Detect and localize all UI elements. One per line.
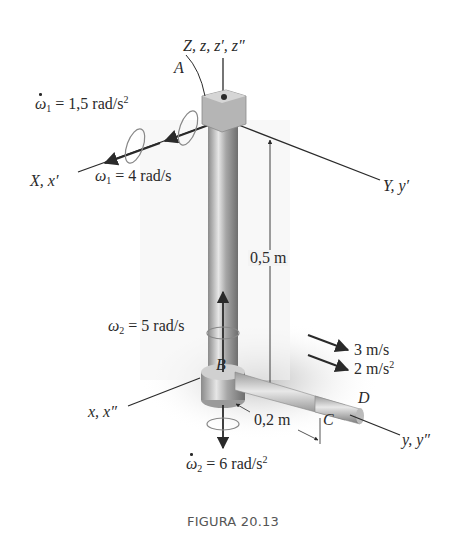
z-axis-label: Z, z, z′, z″ xyxy=(183,38,245,54)
omega2-symbol: ω xyxy=(108,317,119,334)
omega1-symbol: ω xyxy=(95,167,106,184)
top-block-pin xyxy=(221,94,227,100)
length-0-5m-label: 0,5 m xyxy=(248,250,288,266)
slider-end xyxy=(356,408,364,424)
point-D-label: D xyxy=(358,390,370,406)
x-lower-axis-label: x, x″ xyxy=(88,404,117,420)
point-A-label: A xyxy=(174,60,184,76)
acceleration-value: 2 m/s xyxy=(354,360,389,377)
omega2-label: ω2 = 5 rad/s xyxy=(108,318,184,336)
y-lower-axis-line xyxy=(350,415,400,435)
length-0-2m-label: 0,2 m xyxy=(254,412,290,428)
acceleration-label: 2 m/s2 xyxy=(354,360,394,377)
omega2-dot-label: ω2 = 6 rad/s2 xyxy=(186,455,267,474)
omega2-dot-value: = 6 rad/s xyxy=(202,455,262,472)
label-A-leader xyxy=(186,55,205,96)
omega1-dot-value: = 1,5 rad/s xyxy=(51,95,123,112)
omega1-label: ω1 = 4 rad/s xyxy=(95,168,171,186)
acceleration-sup: 2 xyxy=(389,359,394,370)
omega2-value: = 5 rad/s xyxy=(124,317,184,334)
y-upper-axis-label: Y, y′ xyxy=(383,178,409,194)
omega1-value: = 4 rad/s xyxy=(111,167,171,184)
point-B-label: B xyxy=(216,357,226,373)
omega1-dot-label: ω1 = 1,5 rad/s2 xyxy=(35,95,128,114)
x-upper-axis-label: X, x′ xyxy=(30,173,58,189)
omega2-dot-sup: 2 xyxy=(262,454,267,465)
y-lower-axis-label: y, y″ xyxy=(402,432,430,448)
figure-caption: FIGURA 20.13 xyxy=(0,514,466,529)
point-C-label: C xyxy=(323,412,334,428)
omega1-dot-symbol: ω xyxy=(35,96,46,112)
velocity-label: 3 m/s xyxy=(354,342,389,358)
omega2-dot-symbol: ω xyxy=(186,456,197,472)
omega1-dot-sup: 2 xyxy=(123,94,128,105)
